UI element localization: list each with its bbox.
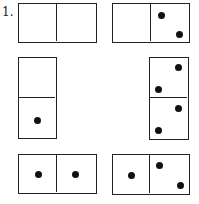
pip-dot bbox=[177, 182, 184, 189]
pip-dot bbox=[155, 86, 162, 93]
domino-half-bottom bbox=[150, 98, 187, 138]
domino-bottom-left bbox=[18, 154, 97, 194]
pip-dot bbox=[156, 162, 163, 169]
domino-top-left bbox=[18, 3, 97, 43]
pip-dot bbox=[35, 171, 42, 178]
domino-top-right bbox=[112, 3, 190, 43]
domino-half-left bbox=[19, 155, 57, 192]
domino-half-left bbox=[113, 4, 151, 41]
pip-dot bbox=[34, 117, 41, 124]
domino-half-right bbox=[150, 155, 189, 193]
pip-dot bbox=[176, 31, 183, 38]
problem-label: 1. bbox=[2, 5, 13, 19]
domino-half-bottom bbox=[19, 98, 55, 137]
domino-middle-right bbox=[149, 57, 189, 140]
domino-half-left bbox=[19, 4, 57, 41]
pip-dot bbox=[155, 127, 162, 134]
domino-middle-left bbox=[18, 57, 57, 139]
pip-dot bbox=[158, 12, 165, 19]
domino-half-right bbox=[57, 4, 95, 41]
pip-dot bbox=[128, 172, 135, 179]
domino-bottom-right bbox=[112, 154, 190, 195]
pip-dot bbox=[175, 64, 182, 71]
pip-dot bbox=[175, 105, 182, 112]
domino-half-left bbox=[113, 155, 150, 193]
domino-half-right bbox=[57, 155, 95, 192]
domino-half-right bbox=[151, 4, 189, 41]
domino-half-top bbox=[19, 58, 55, 98]
pip-dot bbox=[72, 171, 79, 178]
domino-half-top bbox=[150, 58, 187, 98]
